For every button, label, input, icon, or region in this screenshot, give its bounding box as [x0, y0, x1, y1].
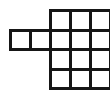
grid-cell: [11, 30, 31, 50]
grid-cell: [51, 50, 71, 70]
grid-cell: [71, 69, 91, 89]
grid-cell: [91, 69, 111, 89]
polyomino-grid-svg: [0, 0, 110, 94]
grid-cell: [51, 11, 71, 31]
grid-cell: [91, 30, 111, 50]
grid-cell: [71, 50, 91, 70]
grid-cell: [71, 11, 91, 31]
grid-cell: [91, 11, 111, 31]
grid-cell: [71, 30, 91, 50]
grid-cells-group: [11, 11, 111, 89]
grid-cell: [51, 69, 71, 89]
grid-cell: [91, 50, 111, 70]
grid-cell: [31, 30, 51, 50]
figure-canvas: [0, 0, 110, 94]
grid-cell: [51, 30, 71, 50]
